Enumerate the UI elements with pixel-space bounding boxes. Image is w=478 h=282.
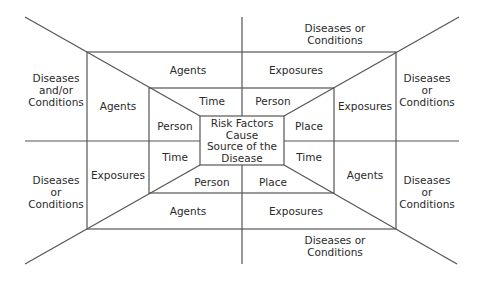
ring2-top-left-label: Time [199, 95, 225, 107]
right-outer-top-line-1: Diseases [399, 72, 455, 84]
right-outer-bottom-line-1: Diseases [399, 174, 455, 186]
ring1-top-right-label: Exposures [269, 64, 323, 76]
ring2-right-top-label: Place [295, 120, 323, 132]
epidemiology-diagram: Risk Factors Cause Source of the Disease… [0, 0, 478, 282]
right-outer-top-line-2: or [399, 84, 455, 96]
ring1-right-bottom-label: Agents [347, 169, 384, 181]
ring2-top-right-label: Person [255, 95, 290, 107]
top-outer-line-1: Diseases or [305, 22, 366, 34]
right-outer-top-label: Diseases or Conditions [399, 72, 455, 108]
ring1-right-top-label: Exposures [338, 100, 392, 112]
left-outer-bottom-line-2: or [28, 186, 84, 198]
ring2-bottom-left-label: Person [194, 176, 229, 188]
right-outer-bottom-line-2: or [399, 186, 455, 198]
ring1-top-left-label: Agents [170, 64, 207, 76]
ring2-left-bottom-label: Time [162, 151, 188, 163]
top-outer-line-2: Conditions [305, 34, 366, 46]
bottom-outer-line-1: Diseases or [305, 234, 366, 246]
ring2-left-top-label: Person [157, 120, 192, 132]
ring1-left-bottom-label: Exposures [91, 169, 145, 181]
left-outer-bottom-line-1: Diseases [28, 174, 84, 186]
ring1-left-top-label: Agents [100, 100, 137, 112]
bottom-outer-line-2: Conditions [305, 246, 366, 258]
left-outer-top-line-2: and/or [28, 84, 84, 96]
ring1-bottom-left-label: Agents [170, 205, 207, 217]
ring2-right-bottom-label: Time [296, 151, 322, 163]
right-outer-bottom-line-3: Conditions [399, 198, 455, 210]
center-label: Risk Factors Cause Source of the Disease [207, 118, 277, 164]
top-outer-label: Diseases or Conditions [305, 22, 366, 46]
left-outer-bottom-line-3: Conditions [28, 198, 84, 210]
center-line-4: Disease [207, 153, 277, 165]
right-outer-top-line-3: Conditions [399, 96, 455, 108]
ring1-bottom-right-label: Exposures [269, 205, 323, 217]
center-line-1: Risk Factors [207, 118, 277, 130]
left-outer-top-line-3: Conditions [28, 96, 84, 108]
center-line-3: Source of the [207, 141, 277, 153]
left-outer-bottom-label: Diseases or Conditions [28, 174, 84, 210]
left-outer-top-label: Diseases and/or Conditions [28, 72, 84, 108]
bottom-outer-label: Diseases or Conditions [305, 234, 366, 258]
ring2-bottom-right-label: Place [259, 176, 287, 188]
left-outer-top-line-1: Diseases [28, 72, 84, 84]
right-outer-bottom-label: Diseases or Conditions [399, 174, 455, 210]
